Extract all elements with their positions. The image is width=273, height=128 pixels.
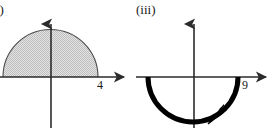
upper-semicircle-graphic: [0, 0, 136, 128]
tick-label-9: 9: [242, 79, 248, 91]
contour-arc: [148, 77, 238, 122]
tick-label-4: 4: [97, 79, 103, 91]
figure-upper-semicircle: i) 4: [0, 0, 136, 128]
diagram-canvas: i) 4 (iii) 9: [0, 0, 273, 128]
lower-semicircle-graphic: [136, 0, 273, 128]
figure-lower-semicircle-arc: (iii) 9: [136, 0, 273, 128]
figure-label-iii: (iii): [136, 3, 156, 16]
figure-label-ii: i): [0, 3, 4, 16]
